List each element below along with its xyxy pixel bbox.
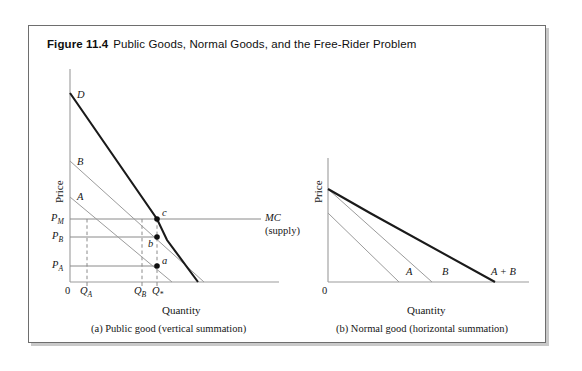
- panel-b-caption: (b) Normal good (horizontal summation): [336, 323, 508, 334]
- panel-b-x-axis-title: Quantity: [407, 304, 446, 316]
- panel-b-y-axis-title: Price: [312, 180, 324, 203]
- panel-b-label-B: B: [442, 266, 448, 277]
- panel-b-label-A: A: [406, 266, 412, 277]
- panel-b-label-A-plus-B: A + B: [491, 266, 516, 277]
- panel-b-plot: [29, 26, 547, 344]
- panel-b-curve-B: [328, 189, 432, 282]
- panel-b-origin-label: 0: [322, 285, 327, 296]
- panel-b-normal-good: Price Quantity 0 A B A + B (b) Normal go…: [29, 26, 545, 342]
- figure-frame: Figure 11.4Public Goods, Normal Goods, a…: [28, 25, 546, 343]
